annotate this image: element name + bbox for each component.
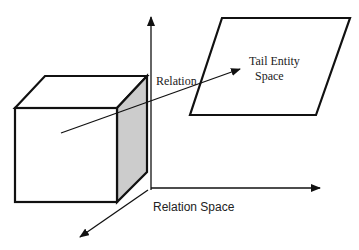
diagram-canvas: Relation Tail Entity Space Relation Spac… — [0, 0, 359, 250]
head-entity-cube — [15, 76, 147, 202]
cube-front-face — [15, 108, 117, 202]
tail-entity-label-line2: Space — [255, 69, 284, 83]
relation-label: Relation — [156, 74, 197, 88]
relation-space-label: Relation Space — [153, 200, 235, 214]
tail-entity-label-line1: Tail Entity — [249, 54, 300, 68]
